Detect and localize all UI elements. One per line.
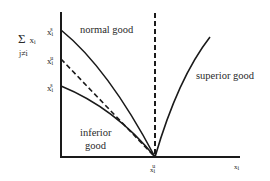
dashed-curve [61,59,155,157]
normal-good-label: normal good [80,25,133,36]
diagram-canvas [0,0,270,181]
y-axis-title: Σ xi [18,30,36,46]
y-tick-xs-upper: xis [47,26,53,37]
sum-symbol: Σ [18,31,26,46]
inferior-good-label-line1: inferior [80,128,112,139]
x-tick-xu: xiu [150,163,155,174]
superior-good-curve [155,37,210,157]
inferior-good-label-line2: good [85,141,106,152]
y-axis-var: xi [30,35,36,45]
y-tick-xu: xiu [47,55,53,66]
inferior-good-curve [61,86,155,157]
x-axis-title: xi [234,164,239,171]
y-tick-xs-lower: xis [47,82,53,93]
y-axis-index: j≠i [19,50,28,58]
superior-good-label: superior good [196,71,254,82]
